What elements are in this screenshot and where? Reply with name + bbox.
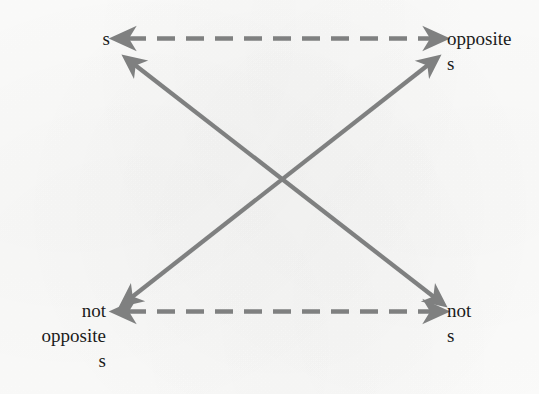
node-label-top-right: opposite s [447, 26, 539, 76]
node-label-top-left: s [60, 26, 110, 51]
diagram-canvas: s opposite s not opposite s not s [0, 0, 539, 394]
node-label-bottom-left: not opposite s [10, 298, 106, 373]
node-label-bottom-right: not s [447, 298, 537, 348]
